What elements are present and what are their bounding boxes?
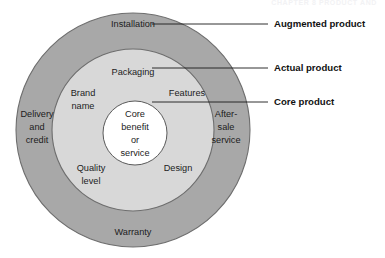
three-levels-of-product-diagram: Installation Delivery and credit After- … xyxy=(0,0,385,258)
callout-augmented-product: Augmented product xyxy=(274,18,366,29)
label-after-sale-service-line-3: service xyxy=(211,135,240,145)
label-delivery-and-credit-line-2: and xyxy=(29,122,44,132)
label-quality-level-line-2: level xyxy=(82,176,101,186)
label-after-sale-service-line-1: After- xyxy=(215,109,237,119)
label-installation: Installation xyxy=(111,19,155,29)
label-design: Design xyxy=(164,163,193,173)
label-quality-level-line-1: Quality xyxy=(77,163,106,173)
label-core-line-2: benefit xyxy=(121,122,149,132)
label-delivery-and-credit-line-1: Delivery xyxy=(20,109,54,119)
label-core-line-1: Core xyxy=(125,109,145,119)
label-features: Features xyxy=(169,88,206,98)
label-brand-name-line-2: name xyxy=(72,101,95,111)
label-core-line-3: or xyxy=(131,135,139,145)
label-warranty: Warranty xyxy=(115,227,152,237)
label-packaging: Packaging xyxy=(112,67,155,77)
callout-core-product: Core product xyxy=(274,96,335,107)
label-brand-name-line-1: Brand xyxy=(71,88,96,98)
callout-actual-product: Actual product xyxy=(274,62,342,73)
label-delivery-and-credit-line-3: credit xyxy=(26,135,49,145)
label-core-line-4: service xyxy=(120,148,149,158)
figure-root: CHAPTER 8 PRODUCT AND Installation Deliv… xyxy=(0,0,385,258)
label-after-sale-service-line-2: sale xyxy=(218,122,235,132)
